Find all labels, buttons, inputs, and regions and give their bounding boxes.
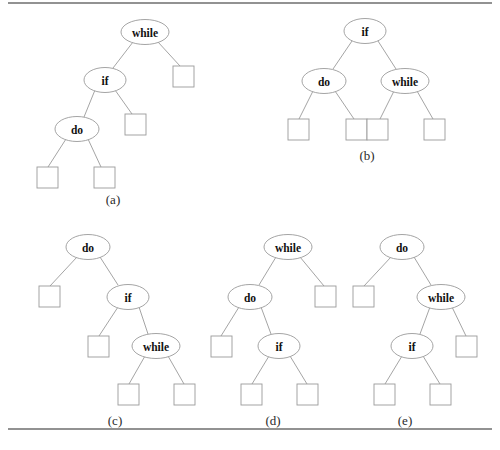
edge-b-if-to-b-while: [378, 41, 396, 69]
leaf-node-c-leaf-3[interactable]: [118, 384, 139, 405]
node-label-d-do: do: [244, 292, 256, 304]
edge-e-if-to-e-leaf-3: [385, 356, 402, 384]
edge-c-do-to-c-leaf-1: [50, 257, 77, 286]
edge-b-while-to-b-leaf-3: [380, 91, 394, 119]
leaf-node-e-leaf-4[interactable]: [430, 384, 451, 405]
edge-a-do-to-a-leaf-3: [48, 139, 66, 167]
edge-b-do-to-b-leaf-1: [299, 91, 313, 119]
syntax-tree-figure: whileifdo(a)ifdowhile(b)doifwhile(c)whil…: [0, 0, 500, 450]
leaf-node-d-leaf-3[interactable]: [241, 384, 262, 405]
leaf-node-c-leaf-4[interactable]: [174, 384, 195, 405]
edge-e-if-to-e-leaf-4: [423, 356, 440, 384]
tree-e: dowhileif(e): [353, 235, 477, 428]
leaf-node-e-leaf-3[interactable]: [374, 384, 395, 405]
edge-d-if-to-d-leaf-4: [290, 356, 307, 384]
node-e-do[interactable]: do: [380, 235, 424, 260]
node-b-if[interactable]: if: [344, 19, 386, 44]
leaf-node-b-leaf-4[interactable]: [424, 119, 445, 140]
caption-e: (e): [398, 413, 412, 428]
caption-b: (b): [359, 148, 374, 163]
leaf-node-b-leaf-1[interactable]: [288, 119, 309, 140]
node-label-e-while: while: [428, 292, 454, 304]
leaf-node-a-leaf-2[interactable]: [125, 114, 146, 135]
edge-a-if-to-a-do: [84, 90, 95, 117]
caption-c: (c): [108, 413, 122, 428]
leaf-node-d-leaf-2[interactable]: [211, 336, 232, 357]
edge-b-do-to-b-leaf-2: [335, 91, 354, 119]
node-e-if[interactable]: if: [391, 334, 433, 359]
node-a-while[interactable]: while: [121, 20, 169, 45]
leaf-node-e-leaf-2[interactable]: [456, 336, 477, 357]
node-a-do[interactable]: do: [55, 117, 99, 142]
edge-d-do-to-d-if: [261, 307, 271, 334]
node-label-d-if: if: [275, 341, 282, 353]
tree-c: doifwhile(c): [39, 235, 195, 428]
edge-d-while-to-d-leaf-1: [300, 257, 324, 286]
node-label-c-if: if: [124, 292, 131, 304]
edge-e-while-to-e-if: [420, 307, 430, 334]
edge-d-do-to-d-leaf-2: [221, 307, 239, 336]
edge-d-if-to-d-leaf-3: [252, 356, 269, 384]
node-label-d-while: while: [275, 242, 301, 254]
edge-c-do-to-c-if: [100, 257, 118, 285]
leaf-node-a-leaf-1[interactable]: [173, 66, 194, 87]
leaf-node-c-leaf-1[interactable]: [39, 286, 60, 307]
edge-c-while-to-c-leaf-4: [168, 356, 184, 384]
node-label-e-do: do: [396, 242, 408, 254]
node-b-while[interactable]: while: [381, 69, 429, 94]
tree-a: whileifdo(a): [37, 20, 194, 207]
node-d-if[interactable]: if: [258, 334, 300, 359]
node-label-b-if: if: [361, 26, 368, 38]
edge-a-if-to-a-leaf-2: [115, 90, 132, 114]
caption-d: (d): [265, 413, 280, 428]
leaf-node-a-leaf-3[interactable]: [37, 167, 58, 188]
leaf-node-c-leaf-2[interactable]: [88, 336, 109, 357]
syntax-tree-canvas: whileifdo(a)ifdowhile(b)doifwhile(c)whil…: [0, 0, 500, 450]
node-d-while[interactable]: while: [264, 235, 312, 260]
edge-a-do-to-a-leaf-4: [88, 139, 101, 167]
leaf-node-b-leaf-2[interactable]: [346, 119, 367, 140]
caption-a: (a): [106, 192, 120, 207]
leaf-node-e-leaf-1[interactable]: [353, 286, 374, 307]
node-label-a-if: if: [101, 75, 108, 87]
leaf-node-b-leaf-3[interactable]: [367, 119, 388, 140]
node-a-if[interactable]: if: [84, 68, 126, 93]
node-label-b-do: do: [318, 76, 330, 88]
node-d-do[interactable]: do: [228, 285, 272, 310]
leaf-node-d-leaf-4[interactable]: [297, 384, 318, 405]
node-c-while[interactable]: while: [132, 334, 180, 359]
edge-c-if-to-c-while: [139, 307, 148, 334]
node-label-a-do: do: [71, 124, 83, 136]
node-c-do[interactable]: do: [66, 235, 110, 260]
node-c-if[interactable]: if: [107, 285, 149, 310]
node-e-while[interactable]: while: [417, 285, 465, 310]
edge-a-while-to-a-if: [113, 42, 133, 68]
edge-e-while-to-e-leaf-2: [452, 307, 466, 336]
edge-e-do-to-e-while: [414, 257, 431, 285]
node-label-b-while: while: [392, 76, 418, 88]
edge-c-while-to-c-leaf-3: [129, 356, 145, 384]
node-label-c-do: do: [82, 242, 94, 254]
node-label-a-while: while: [132, 27, 158, 39]
node-label-e-if: if: [408, 341, 415, 353]
edge-b-while-to-b-leaf-4: [417, 91, 433, 119]
edge-e-do-to-e-leaf-1: [364, 257, 391, 286]
edge-d-while-to-d-do: [259, 257, 276, 285]
node-b-do[interactable]: do: [302, 69, 346, 94]
edge-c-if-to-c-leaf-2: [99, 307, 118, 336]
leaf-node-d-leaf-1[interactable]: [315, 286, 336, 307]
edge-b-if-to-b-do: [333, 41, 352, 69]
node-label-c-while: while: [143, 341, 169, 353]
tree-b: ifdowhile(b): [288, 19, 445, 163]
leaf-node-a-leaf-4[interactable]: [94, 167, 115, 188]
tree-d: whiledoif(d): [211, 235, 336, 428]
edge-a-while-to-a-leaf-1: [158, 42, 180, 66]
